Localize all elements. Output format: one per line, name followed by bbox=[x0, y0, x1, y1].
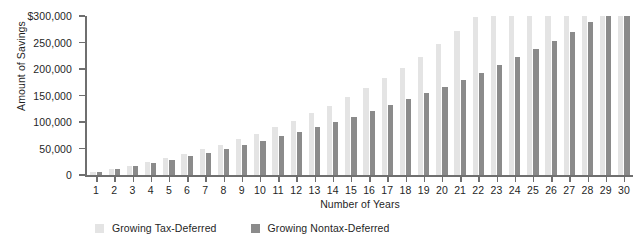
bar-nontax-deferred bbox=[133, 166, 138, 175]
bar-tax-deferred bbox=[90, 172, 95, 175]
x-axis-tick-mark bbox=[242, 177, 244, 182]
x-axis-tick-mark bbox=[624, 177, 626, 182]
bar-tax-deferred bbox=[436, 44, 441, 175]
bar-group bbox=[196, 16, 214, 175]
bar-nontax-deferred bbox=[115, 169, 120, 175]
legend-label: Growing Nontax-Deferred bbox=[268, 222, 390, 234]
bar-nontax-deferred bbox=[224, 149, 229, 175]
bar-group bbox=[506, 16, 524, 175]
bar-tax-deferred bbox=[272, 127, 277, 175]
x-axis-tick-label: 17 bbox=[381, 184, 393, 196]
x-axis-tick-mark bbox=[96, 177, 98, 182]
bar-nontax-deferred bbox=[279, 136, 284, 175]
x-axis-tick-mark bbox=[569, 177, 571, 182]
bar-tax-deferred bbox=[600, 16, 605, 175]
x-axis-tick-mark bbox=[187, 177, 189, 182]
bar-group bbox=[378, 16, 396, 175]
x-axis-tick-mark bbox=[133, 177, 135, 182]
x-axis-tick-mark bbox=[224, 177, 226, 182]
bar-nontax-deferred bbox=[479, 73, 484, 175]
bar-tax-deferred bbox=[218, 145, 223, 175]
x-axis-tick-label: 8 bbox=[221, 184, 227, 196]
bar-nontax-deferred bbox=[169, 160, 174, 175]
x-axis-tick-mark bbox=[478, 177, 480, 182]
bar-group bbox=[178, 16, 196, 175]
y-axis-tick-label: 0 bbox=[66, 169, 72, 181]
x-axis-tick-label: 15 bbox=[345, 184, 357, 196]
bar-group bbox=[251, 16, 269, 175]
x-axis-tick-label: 27 bbox=[563, 184, 575, 196]
bar-nontax-deferred bbox=[315, 127, 320, 175]
x-axis-tick-label: 13 bbox=[309, 184, 321, 196]
y-axis-tick-mark bbox=[79, 174, 85, 176]
x-axis-tick-mark bbox=[260, 177, 262, 182]
bar-nontax-deferred bbox=[297, 132, 302, 175]
bar-nontax-deferred bbox=[424, 93, 429, 175]
bar-tax-deferred bbox=[527, 16, 532, 175]
y-axis-tick-mark bbox=[79, 148, 85, 150]
y-axis-tick-label: 250,000 bbox=[33, 37, 72, 49]
x-axis-tick-label: 1 bbox=[93, 184, 99, 196]
bar-group bbox=[542, 16, 560, 175]
x-axis-tick-label: 18 bbox=[400, 184, 412, 196]
bar-tax-deferred bbox=[473, 17, 478, 175]
x-axis-tick-mark bbox=[278, 177, 280, 182]
x-axis-tick-mark bbox=[606, 177, 608, 182]
x-axis-tick-label: 12 bbox=[290, 184, 302, 196]
x-axis-tick-mark bbox=[442, 177, 444, 182]
bar-tax-deferred bbox=[345, 97, 350, 175]
x-axis-tick-label: 24 bbox=[509, 184, 521, 196]
x-axis-tick-label: 22 bbox=[472, 184, 484, 196]
x-axis-tick-label: 21 bbox=[454, 184, 466, 196]
bar-nontax-deferred bbox=[151, 163, 156, 175]
bar-nontax-deferred bbox=[188, 156, 193, 175]
bar-tax-deferred bbox=[309, 113, 314, 175]
x-axis-tick-label: 19 bbox=[418, 184, 430, 196]
y-axis-tick-mark bbox=[79, 95, 85, 97]
bar-tax-deferred bbox=[382, 78, 387, 175]
bar-group bbox=[597, 16, 615, 175]
x-axis-tick-mark bbox=[333, 177, 335, 182]
y-axis-tick-label: 200,000 bbox=[33, 63, 72, 75]
bar-group bbox=[269, 16, 287, 175]
y-axis-tick-label: 100,000 bbox=[33, 116, 72, 128]
x-axis-tick-label: 16 bbox=[363, 184, 375, 196]
bar-tax-deferred bbox=[291, 121, 296, 175]
y-axis-tick-mark bbox=[79, 121, 85, 123]
bar-nontax-deferred bbox=[370, 111, 375, 175]
y-axis-tick-mark bbox=[79, 42, 85, 44]
y-axis-tick-label: 50,000 bbox=[39, 143, 72, 155]
bar-group bbox=[233, 16, 251, 175]
x-axis-tick-mark bbox=[588, 177, 590, 182]
bar-tax-deferred bbox=[109, 169, 114, 175]
bar-tax-deferred bbox=[418, 57, 423, 176]
x-axis-tick-label: 25 bbox=[527, 184, 539, 196]
bar-group bbox=[469, 16, 487, 175]
plot-area bbox=[87, 16, 633, 175]
legend-swatch-icon bbox=[95, 224, 104, 233]
x-axis-tick-mark bbox=[114, 177, 116, 182]
x-axis-tick-label: 28 bbox=[582, 184, 594, 196]
chart-legend: Growing Tax-DeferredGrowing Nontax-Defer… bbox=[87, 222, 633, 234]
bar-nontax-deferred bbox=[552, 41, 557, 175]
bar-nontax-deferred bbox=[242, 145, 247, 175]
legend-item: Growing Nontax-Deferred bbox=[251, 222, 390, 234]
bar-nontax-deferred bbox=[351, 117, 356, 175]
savings-growth-bar-chart: Amount of Savings $300,000250,000200,000… bbox=[0, 0, 644, 249]
bar-nontax-deferred bbox=[515, 57, 520, 175]
bar-group bbox=[415, 16, 433, 175]
bar-group bbox=[578, 16, 596, 175]
x-axis-tick-label: 20 bbox=[436, 184, 448, 196]
bar-group bbox=[451, 16, 469, 175]
bar-group bbox=[560, 16, 578, 175]
bar-group bbox=[160, 16, 178, 175]
x-axis-tick-label: 11 bbox=[273, 184, 284, 196]
x-axis-tick-label: 3 bbox=[130, 184, 136, 196]
bar-tax-deferred bbox=[363, 88, 368, 175]
x-axis-tick-mark bbox=[315, 177, 317, 182]
legend-swatch-icon bbox=[251, 224, 260, 233]
y-axis-tick-label: 150,000 bbox=[33, 90, 72, 102]
bar-nontax-deferred bbox=[570, 32, 575, 175]
legend-label: Growing Tax-Deferred bbox=[112, 222, 217, 234]
bar-tax-deferred bbox=[454, 31, 459, 175]
